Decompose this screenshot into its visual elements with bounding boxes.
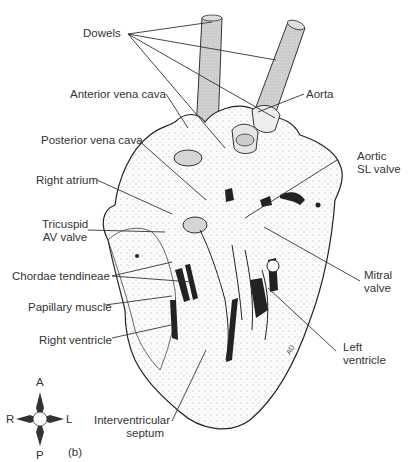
label-septum-line1: Interventricular xyxy=(94,414,164,427)
compass-label-right: R xyxy=(6,413,14,426)
label-mitral-valve: Mitral valve xyxy=(364,269,392,295)
label-left-ventricle-line2: ventricle xyxy=(343,354,386,367)
label-interventricular-septum: Interventricular septum xyxy=(94,414,164,440)
label-mitral-line1: Mitral xyxy=(364,269,392,282)
label-mitral-line2: valve xyxy=(364,282,392,295)
label-tricuspid-av-valve: Tricuspid AV valve xyxy=(42,218,88,244)
label-left-ventricle-line1: Left xyxy=(343,341,386,354)
label-chordae-tendineae: Chordae tendineae xyxy=(12,270,110,283)
panel-label: (b) xyxy=(68,446,82,459)
label-posterior-vena-cava: Posterior vena cava xyxy=(41,134,143,147)
compass-label-posterior: P xyxy=(36,449,44,462)
label-aortic-sl-valve: Aortic SL valve xyxy=(357,150,401,176)
label-left-ventricle: Left ventricle xyxy=(343,341,386,367)
label-right-atrium: Right atrium xyxy=(36,174,98,187)
heart-outline xyxy=(103,106,342,429)
compass-label-left: L xyxy=(66,413,72,426)
label-aortic-line2: SL valve xyxy=(357,163,401,176)
compass-label-anterior: A xyxy=(36,376,44,389)
label-aortic-line1: Aortic xyxy=(357,150,401,163)
label-aorta: Aorta xyxy=(306,88,334,101)
label-tricuspid-line1: Tricuspid xyxy=(42,218,88,231)
posterior-vena-cava-opening xyxy=(174,150,202,166)
label-right-ventricle: Right ventricle xyxy=(39,334,112,347)
compass-rose xyxy=(16,392,64,446)
label-dowels: Dowels xyxy=(83,27,121,40)
label-tricuspid-line2: AV valve xyxy=(42,231,88,244)
label-septum-line2: septum xyxy=(94,427,164,440)
label-papillary-muscle: Papillary muscle xyxy=(28,301,112,314)
label-anterior-vena-cava: Anterior vena cava xyxy=(70,88,166,101)
